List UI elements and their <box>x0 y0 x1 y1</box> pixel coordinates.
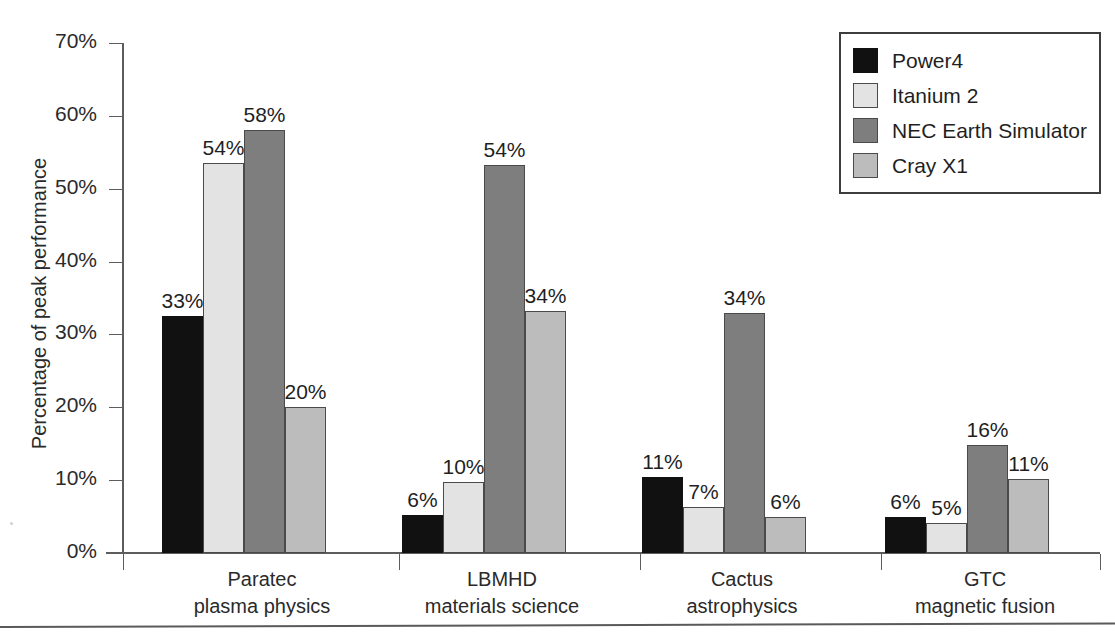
bar-value-label: 54% <box>202 136 244 160</box>
legend-swatch-itanium-2 <box>853 83 878 108</box>
bar-value-label: 7% <box>688 480 718 504</box>
bar <box>967 445 1008 553</box>
x-axis-category-sublabel: magnetic fusion <box>915 593 1055 620</box>
legend-label-power4: Power4 <box>892 49 963 73</box>
bar-value-label: 34% <box>524 284 566 308</box>
x-axis-category-sublabel: astrophysics <box>686 593 797 620</box>
bar <box>926 523 967 553</box>
x-axis-category-sublabel: materials science <box>425 593 580 620</box>
scan-speck <box>10 522 13 525</box>
bar-value-label: 16% <box>966 418 1008 442</box>
bar <box>724 313 765 553</box>
x-axis-category-name: LBMHD <box>467 568 537 590</box>
x-axis-category-sublabel: plasma physics <box>194 593 331 620</box>
x-axis-category-label: Cactusastrophysics <box>686 566 797 620</box>
x-axis-category-name: Paratec <box>228 568 297 590</box>
bar-value-label: 6% <box>770 490 800 514</box>
bar <box>683 507 724 553</box>
bar <box>765 517 806 553</box>
legend: Power4 Itanium 2 NEC Earth Simulator Cra… <box>839 32 1101 194</box>
bar-value-label: 54% <box>483 138 525 162</box>
bar-value-label: 6% <box>407 488 437 512</box>
bar-value-label: 11% <box>642 450 682 474</box>
x-axis-group-separator <box>1100 554 1101 570</box>
legend-item[interactable]: Cray X1 <box>841 148 1099 183</box>
bar-value-label: 6% <box>890 490 920 514</box>
bar <box>484 165 525 553</box>
bar-value-label: 34% <box>723 286 765 310</box>
legend-label-nec-earth-simulator: NEC Earth Simulator <box>892 119 1087 143</box>
bar <box>244 130 285 553</box>
x-axis-group-separator <box>123 554 124 570</box>
legend-swatch-nec-earth-simulator <box>853 118 878 143</box>
bar <box>1008 479 1049 553</box>
bar-value-label: 11% <box>1008 452 1048 476</box>
legend-item[interactable]: Power4 <box>841 43 1099 78</box>
bar <box>162 316 203 553</box>
bar-value-label: 5% <box>931 496 961 520</box>
x-axis-category-name: GTC <box>964 568 1006 590</box>
bar <box>642 477 683 554</box>
bar-value-label: 58% <box>243 103 285 127</box>
x-axis-category-name: Cactus <box>711 568 773 590</box>
bar <box>203 163 244 553</box>
legend-label-itanium-2: Itanium 2 <box>892 84 978 108</box>
bar-chart: Percentage of peak performance 0%10%20%3… <box>0 0 1115 644</box>
bar-value-label: 20% <box>284 380 326 404</box>
x-axis-category-label: Paratecplasma physics <box>194 566 331 620</box>
x-axis-group-separator <box>881 554 882 570</box>
bar <box>885 517 926 553</box>
bar <box>443 482 484 553</box>
bar <box>525 311 566 553</box>
legend-label-cray-x1: Cray X1 <box>892 154 968 178</box>
bar <box>285 407 326 553</box>
legend-item[interactable]: NEC Earth Simulator <box>841 113 1099 148</box>
bar-value-label: 10% <box>442 455 484 479</box>
x-axis-group-separator <box>399 554 400 570</box>
bar-value-label: 33% <box>161 289 203 313</box>
x-axis-category-label: LBMHDmaterials science <box>425 566 580 620</box>
bar <box>402 515 443 553</box>
legend-swatch-cray-x1 <box>853 153 878 178</box>
legend-item[interactable]: Itanium 2 <box>841 78 1099 113</box>
x-axis-category-label: GTCmagnetic fusion <box>915 566 1055 620</box>
x-axis-group-separator <box>640 554 641 570</box>
legend-swatch-power4 <box>853 48 878 73</box>
